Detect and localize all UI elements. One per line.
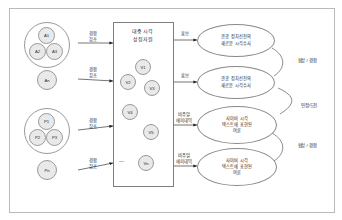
arrow-label-p: 경합 참조 — [80, 118, 106, 131]
relation-label-middle: 인정/도전 — [286, 103, 332, 109]
central-box-title-line2: 상징자원 — [113, 36, 172, 44]
arrow-label-pn: 경합 참조 — [80, 158, 106, 171]
node-an-label: An — [44, 78, 49, 83]
node-a2[interactable]: A2 — [29, 43, 46, 60]
node-v2-label: V2 — [125, 80, 130, 85]
nodes-ellipsis-label: — — [119, 158, 124, 164]
node-p1[interactable]: P1 — [38, 113, 55, 130]
node-an[interactable]: An — [37, 70, 57, 90]
mid-arrow-label-3-line2: 에피데믹 — [170, 118, 198, 124]
outcome-ellipse-1[interactable]: 관광 정치선전의 새로운 시각수사 — [197, 24, 275, 57]
node-p3[interactable]: P3 — [46, 129, 63, 146]
outcome-ellipse-4[interactable]: 사이버 시각 텍스트에 표현된 여론 — [197, 148, 277, 186]
arrow-label-a-line2: 참조 — [80, 37, 106, 43]
node-v3[interactable]: V3 — [144, 80, 160, 96]
node-a1-label: A1 — [44, 33, 49, 38]
diagram-page: A1 A2 A3 An P1 P2 P3 Pn 경합 참조 경합 참조 경합 참… — [0, 0, 342, 220]
outcome-ellipse-4-line3: 여론 — [222, 170, 251, 176]
node-v3-label: V3 — [149, 86, 154, 91]
relation-label-top: 협상 / 경합 — [283, 58, 331, 64]
mid-arrow-label-3: 비주얼 에피데믹 — [170, 112, 198, 125]
outcome-ellipse-3-line3: 여론 — [222, 128, 251, 134]
mid-arrow-label-4: 비주얼 에피데믹 — [170, 153, 198, 166]
node-p2[interactable]: P2 — [29, 129, 46, 146]
node-v5-label: V5 — [148, 130, 153, 135]
outcome-ellipse-2[interactable]: 관광 정치선전의 새로운 시각수사 — [197, 66, 275, 99]
node-pn[interactable]: Pn — [37, 160, 57, 180]
node-vn-label: Vn — [143, 161, 148, 166]
node-p2-label: P2 — [35, 135, 40, 140]
outcome-ellipse-3[interactable]: 사이버 시각 텍스트에 표현된 여론 — [197, 106, 277, 144]
outcome-ellipse-2-line1: 관광 정치선전의 — [221, 76, 250, 82]
central-box-title-line1: 대중 시각 — [113, 28, 172, 36]
node-p1-label: P1 — [44, 119, 49, 124]
node-v1-label: V1 — [140, 65, 145, 70]
node-v1[interactable]: V1 — [135, 59, 151, 75]
mid-arrow-label-2: 홍보 — [174, 73, 196, 79]
mid-arrow-label-1-line1: 홍보 — [174, 31, 196, 37]
node-vn[interactable]: Vn — [138, 155, 154, 171]
node-a1[interactable]: A1 — [38, 27, 55, 44]
arrow-label-an: 경합 참조 — [80, 67, 106, 80]
node-a2-label: A2 — [35, 49, 40, 54]
node-p3-label: P3 — [52, 135, 57, 140]
outcome-ellipse-1-line1: 관광 정치선전의 — [221, 34, 250, 40]
relation-label-bottom: 협상 / 경합 — [283, 143, 331, 149]
mid-arrow-label-4-line2: 에피데믹 — [170, 159, 198, 165]
node-v4[interactable]: V4 — [122, 104, 138, 120]
node-v4-label: V4 — [127, 110, 132, 115]
arrow-label-a: 경합 참조 — [80, 31, 106, 44]
mid-arrow-label-1: 홍보 — [174, 31, 196, 37]
arrow-label-an-line2: 참조 — [80, 73, 106, 79]
outcome-ellipse-1-line2: 새로운 시각수사 — [221, 41, 250, 47]
central-box-title: 대중 시각 상징자원 — [113, 28, 172, 43]
nodes-ellipsis: — — [119, 158, 124, 164]
node-a3[interactable]: A3 — [46, 43, 63, 60]
arrow-label-pn-line2: 참조 — [80, 164, 106, 170]
outcome-ellipse-2-line2: 새로운 시각수사 — [221, 83, 250, 89]
arrow-label-p-line2: 참조 — [80, 124, 106, 130]
mid-arrow-label-2-line1: 홍보 — [174, 73, 196, 79]
node-v5[interactable]: V5 — [143, 124, 159, 140]
node-pn-label: Pn — [44, 168, 49, 173]
node-a3-label: A3 — [52, 49, 57, 54]
node-v2[interactable]: V2 — [120, 74, 136, 90]
